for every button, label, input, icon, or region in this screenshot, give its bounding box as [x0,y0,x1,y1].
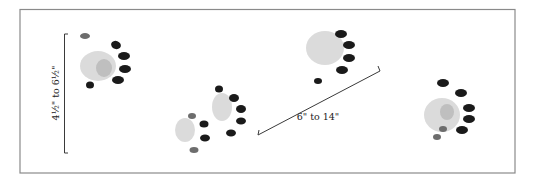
track-diagram: 4½" to 6½" 6" to 14" [0,0,536,186]
stride-label: 6" to 14" [297,111,339,122]
track-length-label: 4½" to 6½" [50,66,61,121]
diagram-frame [20,10,515,174]
